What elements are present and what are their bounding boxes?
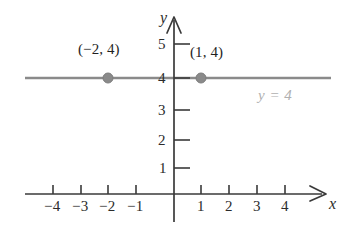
equation-label-y-equals-4: y = 4: [258, 88, 292, 103]
x-axis-ticks: [53, 185, 285, 194]
x-tick-label-3: 3: [253, 199, 261, 214]
x-tick-label-1: 1: [197, 199, 205, 214]
point-label-minus2-4: (−2, 4): [78, 42, 120, 57]
y-axis-ticks: [174, 44, 190, 168]
x-tick-label-4: 4: [281, 199, 289, 214]
x-axis-label: x: [329, 196, 336, 212]
coordinate-plane-figure: y x 5 4 3 2 1 −4 −3 −2 −1 1 2 3 4 (−2, 4…: [0, 0, 346, 231]
y-axis-label: y: [160, 10, 167, 26]
x-tick-label-minus2: −2: [99, 199, 115, 214]
x-tick-label-minus4: −4: [44, 199, 60, 214]
x-tick-label-minus3: −3: [72, 199, 88, 214]
y-tick-label-1: 1: [159, 161, 167, 176]
data-point-minus2-4: [103, 73, 113, 83]
y-tick-label-2: 2: [158, 133, 166, 148]
y-tick-label-4: 4: [158, 71, 166, 86]
x-tick-label-2: 2: [225, 199, 233, 214]
x-tick-label-minus1: −1: [127, 199, 143, 214]
y-tick-label-3: 3: [158, 103, 166, 118]
y-tick-label-5: 5: [158, 37, 166, 52]
point-label-1-4: (1, 4): [190, 45, 223, 60]
data-point-1-4: [196, 73, 206, 83]
graph-canvas: [0, 0, 346, 231]
